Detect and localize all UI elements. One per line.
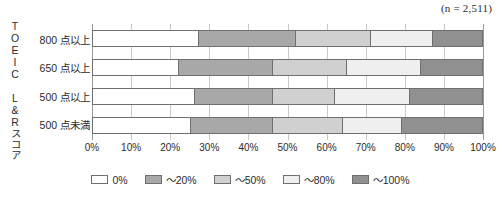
- x-axis-tick-label: 90%: [434, 142, 454, 153]
- legend-item[interactable]: ～80%: [283, 172, 335, 187]
- legend-label: ～50%: [235, 172, 266, 187]
- bar-segment: [92, 30, 198, 47]
- y-axis-title: TOEIC L&Rスコア: [6, 20, 20, 150]
- bar-row: [92, 59, 483, 76]
- legend-label: ～80%: [304, 172, 335, 187]
- x-axis-tick-labels: 0%10%20%30%40%50%60%70%80%90%100%: [92, 142, 483, 156]
- bar-segment: [272, 88, 335, 105]
- legend-item[interactable]: ～100%: [352, 172, 410, 187]
- bar-segment: [432, 30, 483, 47]
- bar-segment: [92, 59, 178, 76]
- bar-segment: [401, 117, 483, 134]
- bar-series-container: [92, 24, 483, 140]
- bar-segment: [194, 88, 272, 105]
- legend-swatch-icon: [283, 175, 300, 184]
- x-axis-tick-label: 80%: [395, 142, 415, 153]
- legend-label: ～20%: [166, 172, 197, 187]
- bar-segment: [92, 117, 190, 134]
- bar-segment: [178, 59, 272, 76]
- legend-swatch-icon: [145, 175, 162, 184]
- x-axis-tick-label: 40%: [238, 142, 258, 153]
- legend-swatch-icon: [352, 175, 369, 184]
- bar-segment: [272, 117, 342, 134]
- bar-segment: [420, 59, 483, 76]
- bar-segment: [272, 59, 346, 76]
- bar-segment: [346, 59, 420, 76]
- category-label-list: 800 点以上 650 点以上 500 点以上 500 点未満: [22, 26, 90, 139]
- x-axis-tick-label: 100%: [470, 142, 496, 153]
- bar-segment: [334, 88, 408, 105]
- bar-row: [92, 30, 483, 47]
- bar-segment: [409, 88, 483, 105]
- legend-label: 0%: [112, 174, 127, 186]
- legend-item[interactable]: ～50%: [214, 172, 266, 187]
- stacked-bar-chart: (n = 2,511) TOEIC L&Rスコア 800 点以上 650 点以上…: [0, 0, 501, 198]
- plot-area: [92, 24, 483, 140]
- bar-segment: [92, 88, 194, 105]
- category-label: 500 点未満: [22, 117, 90, 133]
- gridline: [483, 24, 484, 140]
- bar-segment: [190, 117, 272, 134]
- bar-segment: [198, 30, 296, 47]
- x-axis-tick-label: 60%: [317, 142, 337, 153]
- category-label: 800 点以上: [22, 32, 90, 48]
- bar-row: [92, 117, 483, 134]
- x-axis-tick-label: 30%: [199, 142, 219, 153]
- bar-segment: [342, 117, 401, 134]
- x-axis-tick-label: 10%: [121, 142, 141, 153]
- bar-segment: [370, 30, 433, 47]
- x-axis-tick-label: 50%: [277, 142, 297, 153]
- chart-legend: 0%～20%～50%～80%～100%: [0, 172, 501, 187]
- bar-row: [92, 88, 483, 105]
- legend-item[interactable]: ～20%: [145, 172, 197, 187]
- category-label: 650 点以上: [22, 60, 90, 76]
- bar-segment: [295, 30, 369, 47]
- sample-size-note: (n = 2,511): [441, 2, 492, 14]
- legend-item[interactable]: 0%: [91, 174, 127, 186]
- legend-swatch-icon: [214, 175, 231, 184]
- category-label: 500 点以上: [22, 89, 90, 105]
- legend-swatch-icon: [91, 175, 108, 184]
- x-axis-tick-label: 20%: [160, 142, 180, 153]
- x-axis-tick-label: 70%: [356, 142, 376, 153]
- x-axis-tick-label: 0%: [85, 142, 99, 153]
- legend-label: ～100%: [373, 172, 410, 187]
